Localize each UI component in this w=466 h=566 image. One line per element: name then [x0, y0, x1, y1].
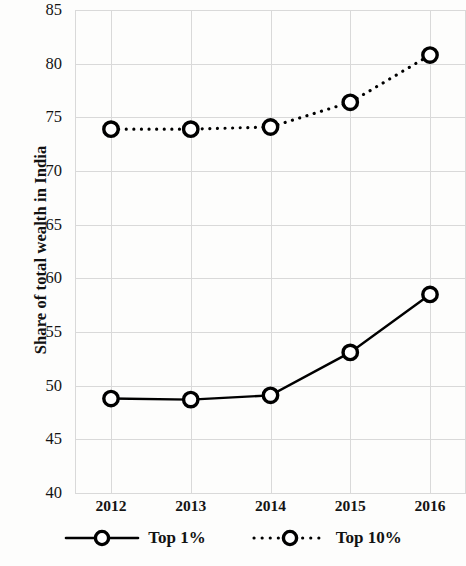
x-tick-label: 2015: [335, 497, 366, 515]
y-tick-label: 65: [46, 215, 63, 235]
x-tick-label: 2012: [96, 497, 127, 515]
y-tick-label: 40: [46, 483, 63, 503]
data-point-marker: [423, 48, 437, 62]
y-tick-label: 45: [46, 429, 63, 449]
y-axis-tick-labels: 40455055606570758085: [0, 10, 68, 493]
data-point-marker: [104, 122, 118, 136]
x-tick-label: 2016: [415, 497, 446, 515]
y-tick-label: 80: [46, 54, 63, 74]
legend-label: Top 10%: [336, 528, 402, 548]
chart-legend: Top 1%Top 10%: [0, 528, 466, 548]
x-axis-tick-labels: 20122013201420152016: [75, 497, 466, 523]
data-point-marker: [343, 95, 357, 109]
plot-area: [75, 10, 466, 493]
data-point-marker: [263, 120, 277, 134]
x-tick-label: 2013: [175, 497, 206, 515]
x-tick-label: 2014: [255, 497, 286, 515]
series-line-top-10: [111, 55, 430, 129]
y-tick-label: 75: [46, 107, 63, 127]
data-point-marker: [343, 345, 357, 359]
legend-item: Top 1%: [64, 528, 205, 548]
y-tick-label: 85: [46, 0, 63, 20]
y-tick-label: 50: [46, 376, 63, 396]
legend-marker-dotted: [252, 528, 328, 548]
chart-figure: Share of total wealth in India 404550556…: [0, 0, 466, 566]
data-point-marker: [184, 122, 198, 136]
y-tick-label: 55: [46, 322, 63, 342]
data-point-marker: [423, 287, 437, 301]
y-tick-label: 60: [46, 268, 63, 288]
legend-marker-solid: [64, 528, 140, 548]
y-tick-label: 70: [46, 161, 63, 181]
data-point-marker: [263, 388, 277, 402]
legend-item: Top 10%: [252, 528, 402, 548]
gridline-horizontal: [75, 493, 466, 494]
data-point-marker: [104, 391, 118, 405]
legend-label: Top 1%: [148, 528, 205, 548]
series-line-top-1: [111, 294, 430, 399]
data-series-layer: [75, 10, 466, 493]
data-point-marker: [184, 392, 198, 406]
